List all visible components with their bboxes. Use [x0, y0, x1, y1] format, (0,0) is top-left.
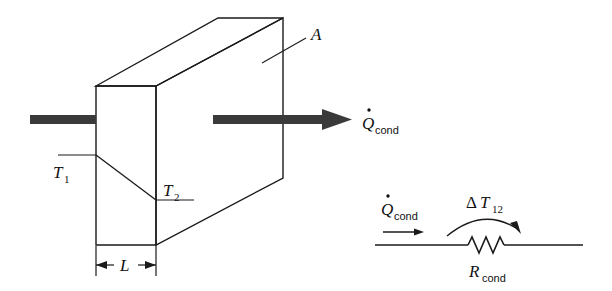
network-heat-rate-subscript: cond	[394, 210, 418, 222]
network-heat-rate-label: Q cond	[381, 194, 418, 222]
network-heat-rate-dot-accent	[386, 194, 389, 197]
resistance-subscript: cond	[482, 272, 506, 284]
delta-temperature-label: Δ T 12	[466, 193, 503, 215]
delta-temperature-arc	[447, 219, 521, 236]
heat-rate-dot-accent	[367, 108, 370, 111]
temperature-gradient-line	[96, 155, 156, 200]
wall-top-face	[96, 18, 283, 86]
resistor-symbol	[468, 237, 504, 253]
delta-symbol: Δ	[466, 193, 477, 212]
t1-subscript: 1	[64, 173, 70, 185]
thickness-label: L	[119, 256, 129, 275]
network-heat-rate-symbol: Q	[381, 200, 393, 219]
heat-in-arrow	[30, 115, 96, 124]
t1-label: T 1	[53, 163, 70, 185]
conduction-diagram: A Q cond T 1 T 2	[0, 0, 612, 291]
heat-rate-subscript: cond	[375, 124, 399, 136]
dim-arrowhead-left	[96, 261, 107, 269]
t2-label: T 2	[163, 181, 180, 203]
resistance-network: Q cond Δ T 12 R con	[375, 193, 583, 284]
area-leader-line	[262, 38, 306, 63]
resistance-label: R cond	[468, 262, 506, 284]
t2-symbol: T	[163, 181, 174, 200]
area-label: A	[310, 25, 322, 44]
dim-arrowhead-right	[145, 261, 156, 269]
t1-symbol: T	[53, 163, 64, 182]
wall-front-face	[156, 18, 283, 245]
wall-left-face	[96, 86, 156, 245]
heat-rate-label: Q cond	[362, 108, 399, 136]
delta-temperature-subscript: 12	[492, 203, 503, 215]
heat-rate-symbol: Q	[362, 114, 374, 133]
resistance-symbol: R	[468, 262, 480, 281]
delta-temperature-symbol: T	[480, 193, 491, 212]
t2-subscript: 2	[174, 191, 180, 203]
wall-block	[96, 18, 283, 245]
network-flow-arrow	[383, 229, 424, 236]
